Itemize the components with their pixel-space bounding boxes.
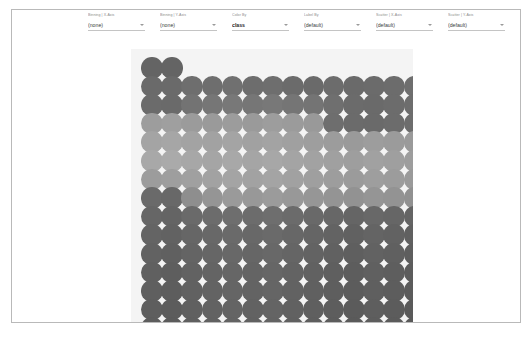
label-by-select[interactable]: (default) xyxy=(304,21,361,31)
app-window: Binning | X-Axis(none)Binning | Y-Axis(n… xyxy=(0,0,532,340)
color-by-label: Color By xyxy=(232,13,289,18)
data-point[interactable] xyxy=(161,317,183,323)
binning-y-axis-label: Binning | Y-Axis xyxy=(160,13,217,18)
controls-toolbar: Binning | X-Axis(none)Binning | Y-Axis(n… xyxy=(12,10,520,40)
data-point[interactable] xyxy=(242,317,264,323)
binning-x-axis-label: Binning | X-Axis xyxy=(88,13,145,18)
field-scatter-x-axis: Scatter | X-Axis(default) xyxy=(376,10,433,31)
data-point[interactable] xyxy=(323,317,345,323)
data-point[interactable] xyxy=(303,317,325,323)
chevron-down-icon[interactable] xyxy=(356,24,360,26)
binning-y-axis-value: (none) xyxy=(160,22,209,29)
field-color-by: Color Byclass xyxy=(232,10,289,31)
data-point[interactable] xyxy=(181,317,203,323)
data-point[interactable] xyxy=(141,317,163,323)
field-scatter-y-axis: Scatter | Y-Axis(default) xyxy=(448,10,505,31)
scatter-x-axis-select[interactable]: (default) xyxy=(376,21,433,31)
data-point[interactable] xyxy=(262,317,284,323)
data-point[interactable] xyxy=(404,317,413,323)
scatter-plot-area[interactable] xyxy=(131,49,413,323)
visualization-panel: Binning | X-Axis(none)Binning | Y-Axis(n… xyxy=(11,9,521,323)
label-by-label: Label By xyxy=(304,13,361,18)
color-by-select[interactable]: class xyxy=(232,21,289,31)
chevron-down-icon[interactable] xyxy=(500,24,504,26)
field-binning-y-axis: Binning | Y-Axis(none) xyxy=(160,10,217,31)
data-point[interactable] xyxy=(222,317,244,323)
scatter-y-axis-select[interactable]: (default) xyxy=(448,21,505,31)
data-point[interactable] xyxy=(282,317,304,323)
scatter-x-axis-value: (default) xyxy=(376,22,425,29)
scatter-y-axis-value: (default) xyxy=(448,22,497,29)
binning-y-axis-select[interactable]: (none) xyxy=(160,21,217,31)
data-point[interactable] xyxy=(343,317,365,323)
label-by-value: (default) xyxy=(304,22,353,29)
chevron-down-icon[interactable] xyxy=(428,24,432,26)
data-point[interactable] xyxy=(202,317,224,323)
binning-x-axis-value: (none) xyxy=(88,22,137,29)
field-label-by: Label By(default) xyxy=(304,10,361,31)
chevron-down-icon[interactable] xyxy=(284,24,288,26)
chevron-down-icon[interactable] xyxy=(140,24,144,26)
data-point[interactable] xyxy=(383,317,405,323)
field-binning-x-axis: Binning | X-Axis(none) xyxy=(88,10,145,31)
scatter-x-axis-label: Scatter | X-Axis xyxy=(376,13,433,18)
data-point[interactable] xyxy=(363,317,385,323)
scatter-y-axis-label: Scatter | Y-Axis xyxy=(448,13,505,18)
color-by-value: class xyxy=(232,22,281,29)
chevron-down-icon[interactable] xyxy=(212,24,216,26)
binning-x-axis-select[interactable]: (none) xyxy=(88,21,145,31)
